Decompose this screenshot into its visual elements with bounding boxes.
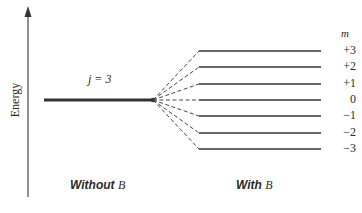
split-level-lines bbox=[199, 51, 321, 149]
caption-with-text: With bbox=[236, 178, 265, 192]
m-label: +2 bbox=[334, 59, 356, 74]
caption-without-field: Without B bbox=[70, 178, 125, 193]
m-label: −3 bbox=[334, 141, 356, 156]
split-connectors bbox=[153, 51, 199, 149]
diagram-graphics bbox=[0, 0, 362, 213]
arrow-up-icon bbox=[25, 6, 32, 17]
caption-with-field: With B bbox=[236, 178, 273, 193]
m-label: +3 bbox=[334, 43, 356, 58]
m-label: −2 bbox=[334, 125, 356, 140]
j-value-label: j = 3 bbox=[88, 72, 111, 87]
m-label: +1 bbox=[334, 76, 356, 91]
m-label: −1 bbox=[334, 108, 356, 123]
zeeman-splitting-diagram: Energy j = 3 m +3 +2 +1 0 −1 −2 −3 Witho… bbox=[0, 0, 362, 213]
caption-without-text: Without bbox=[70, 178, 118, 192]
m-label: 0 bbox=[334, 92, 356, 107]
m-column-header: m bbox=[341, 27, 349, 39]
caption-without-symbol: B bbox=[118, 178, 125, 192]
energy-axis bbox=[25, 6, 32, 197]
caption-with-symbol: B bbox=[265, 178, 272, 192]
energy-axis-label: Energy bbox=[8, 75, 23, 125]
